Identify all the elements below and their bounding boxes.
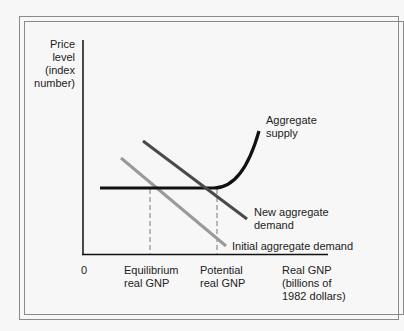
initial-aggregate-demand-label: Initial aggregate demand	[232, 240, 353, 253]
potential-real-gnp-label: Potential real GNP	[200, 264, 245, 290]
aggregate-supply-label: Aggregate supply	[266, 114, 317, 140]
new-aggregate-demand-label: New aggregate demand	[254, 206, 329, 232]
y-axis-label: Price level (index number)	[30, 38, 75, 90]
equilibrium-real-gnp-label: Equilibrium real GNP	[124, 264, 178, 290]
initial-aggregate-demand-curve	[121, 158, 226, 246]
x-axis-label: Real GNP (billions of 1982 dollars)	[282, 264, 346, 303]
origin-label: 0	[81, 264, 87, 277]
